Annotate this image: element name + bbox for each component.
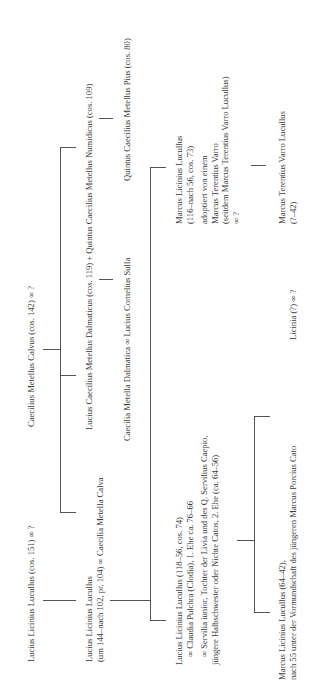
person-marcus-cos73: Marcus Licinius Lucullus (116–nach 56, c…	[174, 76, 241, 224]
person-lucius-cos74: Lucius Licinius Lucullus (118–56, cos. 7…	[174, 436, 220, 666]
connector-marcus73-descent	[251, 165, 266, 166]
connector-calvus-to-dalmaticus	[60, 375, 76, 376]
connector-to-marcus73	[150, 167, 166, 168]
connector-to-lucius74	[150, 620, 166, 621]
connector-calvus-to-numidicus	[60, 147, 76, 148]
connector-lucius151-descent	[43, 600, 76, 601]
connector-dalmaticus-to-dalmatica	[99, 279, 113, 280]
person-marcus-64: Marcus Licinius Lucullus (64–42), nach 5…	[277, 446, 298, 680]
person-dalmaticus-numidicus: Lucius Caecilius Metellus Dalmaticus (co…	[84, 84, 95, 430]
connector-calvus-descent	[43, 349, 60, 350]
connector-lucius74-descent	[237, 540, 254, 541]
person-metellus-pius: Quintus Caecilius Metellus Pius (cos. 80…	[122, 38, 133, 181]
connector-lucius104-descent	[110, 600, 150, 601]
connector-sons-bracket	[150, 167, 151, 620]
person-lucius-cos151: Lucius Licinius Lucullus (cos. 151) ∞ ?	[26, 525, 37, 662]
person-marcus-varro: Marcus Terentius Varro Lucullus (?–42)	[277, 111, 298, 224]
connector-to-licinia	[254, 416, 270, 417]
person-metella-dalmatica: Caecilia Metella Dalmatica ∞ Lucius Corn…	[122, 258, 133, 441]
person-caecilius-calvus: Caecilius Metellus Calvus (cos. 142) ∞ ?	[26, 286, 37, 427]
connector-calvus-to-calva	[60, 512, 76, 513]
person-lucius-pr104: Lucius Licinius Lucullus (um 144–nach 10…	[84, 477, 105, 662]
connector-children-bracket	[254, 416, 255, 613]
connector-numidicus-to-pius	[99, 118, 113, 119]
connector-to-marcus64	[254, 612, 270, 613]
person-licinia: Licinia (?) ∞ ?	[288, 290, 299, 340]
connector-calvus-bracket	[60, 147, 61, 512]
